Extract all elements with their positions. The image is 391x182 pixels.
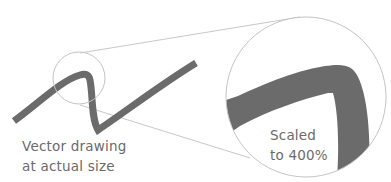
caption-scaled-line2: to 400% [270, 147, 328, 163]
caption-scaled-line1: Scaled [270, 127, 316, 143]
caption-actual-line1: Vector drawing [22, 138, 126, 154]
caption-actual-line2: at actual size [22, 158, 115, 174]
caption-actual-size: Vector drawing at actual size [22, 136, 126, 176]
caption-scaled: Scaled to 400% [270, 125, 328, 165]
